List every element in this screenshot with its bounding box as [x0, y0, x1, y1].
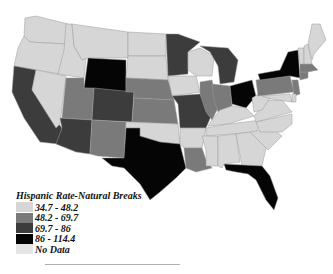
legend-label: 86 - 114.4	[35, 233, 75, 244]
legend-swatch	[16, 223, 33, 233]
state-IA	[168, 76, 200, 96]
state-CO	[92, 88, 134, 122]
state-WY	[84, 58, 126, 92]
state-SD	[126, 56, 168, 80]
legend-item: 86 - 114.4	[16, 234, 142, 245]
state-OH	[230, 80, 256, 108]
legend-item: 69.7 - 86	[16, 223, 142, 234]
state-KS	[132, 98, 178, 124]
map-legend: Hispanic Rate-Natural Breaks 34.7 - 48.2…	[16, 190, 142, 255]
state-NM	[90, 120, 126, 158]
legend-item: No Data	[16, 244, 142, 255]
legend-title: Hispanic Rate-Natural Breaks	[16, 190, 142, 201]
state-AZ	[56, 118, 92, 154]
state-AL	[218, 134, 240, 168]
legend-label: 69.7 - 86	[35, 223, 71, 234]
state-ND	[128, 32, 166, 56]
horizontal-rule	[45, 264, 180, 265]
state-AR	[180, 128, 206, 148]
legend-label: 34.7 - 48.2	[35, 202, 78, 213]
state-MT	[72, 24, 128, 60]
legend-swatch	[16, 202, 33, 212]
legend-item: 48.2 - 69.7	[16, 213, 142, 224]
state-NY	[258, 50, 300, 80]
state-ME	[308, 24, 326, 60]
legend-item: 34.7 - 48.2	[16, 202, 142, 213]
legend-swatch	[16, 234, 33, 244]
states	[12, 16, 326, 210]
legend-label: No Data	[35, 244, 70, 255]
state-MA	[300, 64, 318, 72]
legend-label: 48.2 - 69.7	[35, 212, 78, 223]
state-WA	[24, 16, 68, 44]
state-DE	[292, 94, 296, 102]
legend-swatch	[16, 244, 33, 254]
state-NJ	[292, 80, 300, 96]
legend-swatch	[16, 213, 33, 223]
state-CT	[300, 72, 308, 80]
state-FL	[224, 164, 278, 210]
